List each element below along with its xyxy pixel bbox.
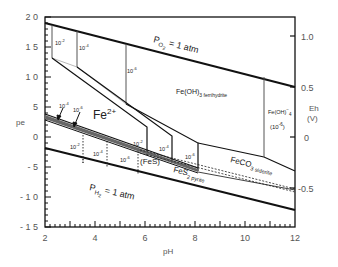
svg-text:1 0: 1 0: [25, 72, 38, 82]
svg-text:6: 6: [142, 233, 147, 243]
svg-text:1.0: 1.0: [301, 32, 314, 42]
svg-text:- 1 0: - 1 0: [20, 192, 38, 202]
ferrihydrite-boundaries: [52, 25, 126, 104]
svg-text:10-6: 10-6: [73, 105, 83, 113]
svg-text:2: 2: [42, 233, 47, 243]
pe-ph-diagram: 2 0 1 5 1 0 5 0 - 5 - 1 0 - 1 5 2 4 6 8 …: [0, 0, 338, 267]
x-axis-ticks: [50, 221, 290, 227]
ph2-label: PH2 = 1 atm: [88, 182, 136, 205]
svg-text:- 1 5: - 1 5: [20, 222, 38, 232]
svg-text:-0.5: -0.5: [298, 184, 314, 194]
svg-text:5: 5: [33, 102, 38, 112]
ferrihydrite-label: Fe(OH)3 ferrihydrite: [176, 88, 227, 98]
svg-text:0: 0: [304, 133, 309, 143]
svg-text:12: 12: [290, 233, 300, 243]
svg-text:4: 4: [92, 233, 97, 243]
svg-text:8: 8: [192, 233, 197, 243]
svg-text:10-2: 10-2: [133, 139, 143, 147]
fe2-label: Fe2+: [93, 107, 116, 122]
svg-text:10-2: 10-2: [70, 142, 80, 150]
feoh4-label: Fe(OH)−4: [268, 107, 292, 117]
svg-text:10: 10: [240, 233, 250, 243]
svg-text:10-4: 10-4: [93, 149, 103, 157]
ph2-line: [45, 148, 295, 210]
svg-text:1 5: 1 5: [25, 42, 38, 52]
svg-text:10-4: 10-4: [159, 144, 169, 152]
x-axis-label: pH: [163, 247, 173, 256]
svg-text:0: 0: [33, 132, 38, 142]
x-tick-labels: 2 4 6 8 10 12: [42, 233, 300, 243]
pyrite-siderite-boundary: [198, 172, 295, 190]
y2-tick-labels: 1.0 0.5 0 -0.5: [298, 32, 314, 194]
y2-axis-label-eh: Eh: [309, 104, 319, 113]
y-axis-label: pe: [16, 118, 25, 127]
po2-label: PO2 = 1 atm: [152, 34, 200, 59]
fes-label: (FeS): [140, 157, 160, 166]
svg-text:10-6: 10-6: [127, 66, 137, 74]
feoh4-concentration: (10-6): [270, 122, 285, 130]
svg-text:10-6: 10-6: [185, 152, 195, 160]
y2-axis-label-unit: (V): [307, 114, 318, 123]
svg-text:10-2: 10-2: [55, 38, 65, 46]
po2-line: [45, 23, 295, 87]
svg-text:- 5: - 5: [27, 162, 38, 172]
svg-text:10-4: 10-4: [79, 43, 89, 51]
fe2-pyrite-band: [45, 114, 198, 173]
svg-text:10-6: 10-6: [120, 155, 130, 163]
svg-text:10-4: 10-4: [59, 101, 69, 109]
svg-text:0.5: 0.5: [301, 83, 314, 93]
svg-text:2 0: 2 0: [25, 12, 38, 22]
